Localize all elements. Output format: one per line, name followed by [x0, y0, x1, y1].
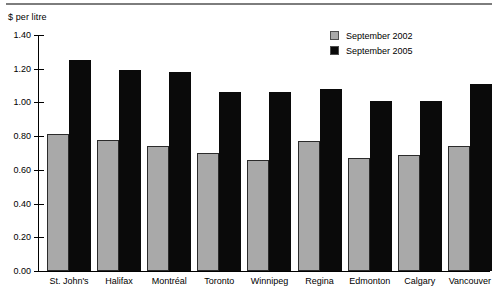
bar-september-2005	[320, 89, 342, 271]
bar-group	[97, 35, 141, 271]
bar-september-2002	[298, 141, 320, 271]
x-tick-label: Vancouver	[449, 276, 491, 286]
y-tick-label: 0.60	[13, 166, 31, 175]
y-tick-mark	[34, 271, 39, 272]
bar-september-2005	[370, 101, 392, 271]
plot-area: 0.000.200.400.600.801.001.201.40 St. Joh…	[38, 35, 490, 271]
top-divider	[6, 3, 492, 5]
bar-group	[147, 35, 191, 271]
x-axis-line	[38, 271, 490, 272]
y-tick-label: 0.80	[13, 132, 31, 141]
bar-group	[398, 35, 442, 271]
bar-september-2005	[169, 72, 191, 271]
x-tick-label: Toronto	[204, 276, 234, 286]
y-axis-unit-label: $ per litre	[8, 12, 47, 22]
bar-series-container	[39, 35, 490, 271]
bar-group	[197, 35, 241, 271]
bar-september-2002	[448, 146, 470, 271]
bar-group	[247, 35, 291, 271]
x-tick-label: Montréal	[152, 276, 187, 286]
bar-group	[348, 35, 392, 271]
bar-group	[298, 35, 342, 271]
x-tick-label: Edmonton	[349, 276, 390, 286]
bar-september-2002	[247, 160, 269, 271]
y-tick-label: 1.40	[13, 31, 31, 40]
bar-september-2002	[197, 153, 219, 271]
x-tick-label: Winnipeg	[251, 276, 289, 286]
bar-september-2002	[47, 134, 69, 271]
y-tick-label: 0.00	[13, 267, 31, 276]
bar-september-2005	[219, 92, 241, 271]
x-tick-label: Calgary	[404, 276, 435, 286]
y-tick-label: 0.40	[13, 200, 31, 209]
y-tick-label: 1.00	[13, 98, 31, 107]
chart-figure: $ per litre September 2002September 2005…	[0, 0, 498, 300]
bar-september-2002	[348, 158, 370, 271]
y-tick-label: 1.20	[13, 65, 31, 74]
y-tick-label: 0.20	[13, 233, 31, 242]
bar-september-2005	[69, 60, 91, 271]
bar-september-2002	[398, 155, 420, 271]
bar-september-2005	[269, 92, 291, 271]
bar-group	[47, 35, 91, 271]
x-tick-label: Regina	[305, 276, 334, 286]
x-tick-label: St. John's	[49, 276, 88, 286]
bar-september-2002	[97, 140, 119, 271]
bar-september-2002	[147, 146, 169, 271]
bar-september-2005	[470, 84, 492, 271]
bar-september-2005	[119, 70, 141, 271]
bar-september-2005	[420, 101, 442, 271]
x-tick-label: Halifax	[105, 276, 133, 286]
bar-group	[448, 35, 492, 271]
